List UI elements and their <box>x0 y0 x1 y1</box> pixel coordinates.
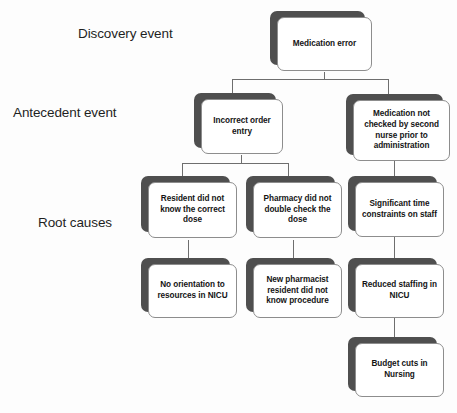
node-card[interactable]: Resident did not know the correct dose <box>148 182 237 238</box>
node-label: Resident did not know the correct dose <box>149 194 236 226</box>
node-time-constraints[interactable]: Significant time constraints on staff <box>348 176 437 231</box>
node-pharmacy-double-check[interactable]: Pharmacy did not double check the dose <box>246 176 335 232</box>
node-card[interactable]: Medication not checked by second nurse p… <box>353 100 450 161</box>
node-label: Medication not checked by second nurse p… <box>354 109 449 152</box>
connector-to-new-pharmacist <box>293 240 294 260</box>
node-card[interactable]: No orientation to resources in NICU <box>148 264 237 318</box>
node-incorrect-order-entry[interactable]: Incorrect order entry <box>194 93 276 148</box>
connector-to-budget-cuts <box>394 318 395 338</box>
node-card[interactable]: Reduced staffing in NICU <box>355 264 444 318</box>
node-budget-cuts[interactable]: Budget cuts in Nursing <box>348 337 437 391</box>
node-no-orientation[interactable]: No orientation to resources in NICU <box>141 258 230 312</box>
connector-level1-bus <box>232 79 389 80</box>
node-label: New pharmacist resident did not know pro… <box>254 275 341 307</box>
tier-label-root-causes: Root causes <box>38 216 112 231</box>
node-card[interactable]: Budget cuts in Nursing <box>355 343 444 397</box>
node-label: Reduced staffing in NICU <box>356 280 443 302</box>
node-label: Incorrect order entry <box>202 116 282 138</box>
tier-label-discovery-event: Discovery event <box>78 27 173 42</box>
node-card[interactable]: Incorrect order entry <box>201 99 283 154</box>
connector-level2-bus <box>182 163 289 164</box>
node-card[interactable]: Medication error <box>277 17 372 71</box>
root-cause-analysis-diagram: Discovery event Antecedent event Root ca… <box>0 0 457 413</box>
node-label: No orientation to resources in NICU <box>149 280 236 302</box>
node-label: Medication error <box>288 39 361 50</box>
node-card[interactable]: New pharmacist resident did not know pro… <box>253 264 342 318</box>
tier-label-antecedent-event: Antecedent event <box>13 106 116 121</box>
node-new-pharmacist[interactable]: New pharmacist resident did not know pro… <box>246 258 335 312</box>
connector-to-reduced-staffing <box>394 237 395 260</box>
node-card[interactable]: Significant time constraints on staff <box>355 182 444 237</box>
node-label: Significant time constraints on staff <box>356 199 443 221</box>
connector-to-no-orientation <box>188 240 189 260</box>
node-label: Budget cuts in Nursing <box>356 359 443 381</box>
node-reduced-staffing[interactable]: Reduced staffing in NICU <box>348 258 437 312</box>
node-medication-not-checked[interactable]: Medication not checked by second nurse p… <box>346 94 443 155</box>
node-resident-dose[interactable]: Resident did not know the correct dose <box>141 176 230 232</box>
node-medication-error[interactable]: Medication error <box>270 11 365 65</box>
node-label: Pharmacy did not double check the dose <box>254 194 341 226</box>
node-card[interactable]: Pharmacy did not double check the dose <box>253 182 342 238</box>
